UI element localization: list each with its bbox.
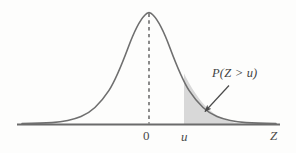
probability-annotation-label: P(Z > u) bbox=[212, 67, 257, 81]
axis-label-threshold-u: u bbox=[181, 130, 188, 143]
normal-distribution-figure: P(Z > u) 0 u Z bbox=[0, 0, 296, 153]
axis-label-z: Z bbox=[270, 129, 277, 142]
axis-label-mean: 0 bbox=[143, 129, 150, 142]
annotation-arrow bbox=[205, 86, 229, 112]
